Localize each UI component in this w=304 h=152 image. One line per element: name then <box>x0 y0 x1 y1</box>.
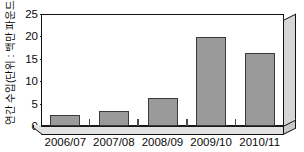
y-axis-tick-label: 15 <box>16 53 38 65</box>
y-axis-title: 연간 수입(단위 : 백만 파운드) <box>3 1 17 125</box>
bar <box>245 53 275 126</box>
bar-chart-figure: 연간 수입(단위 : 백만 파운드) 0510152025 2006/07200… <box>0 0 304 152</box>
x-axis-tick-label: 2008/09 <box>138 134 187 150</box>
bar <box>196 37 226 126</box>
y-axis-tick-label: 25 <box>16 8 38 20</box>
bar <box>50 115 80 126</box>
y-axis-tick-label: 10 <box>16 75 38 87</box>
bar <box>99 111 129 126</box>
category-divider <box>235 119 237 126</box>
x-axis-tick-label: 2009/10 <box>187 134 236 150</box>
category-divider <box>186 119 188 126</box>
category-divider <box>137 119 139 126</box>
bar <box>148 98 178 126</box>
category-divider <box>89 119 91 126</box>
x-axis-tick-labels: 2006/072007/082008/092009/102010/11 <box>33 134 295 150</box>
chart-right-wall <box>283 13 296 132</box>
x-axis-tick-label: 2006/07 <box>41 134 90 150</box>
bars-layer <box>41 14 284 126</box>
y-axis-tick-label: 20 <box>16 30 38 42</box>
y-axis-tick-label: 5 <box>16 98 38 110</box>
x-axis-tick-label: 2010/11 <box>235 134 284 150</box>
x-axis-tick-label: 2007/08 <box>90 134 139 150</box>
y-axis-tick-labels: 0510152025 <box>16 8 38 132</box>
